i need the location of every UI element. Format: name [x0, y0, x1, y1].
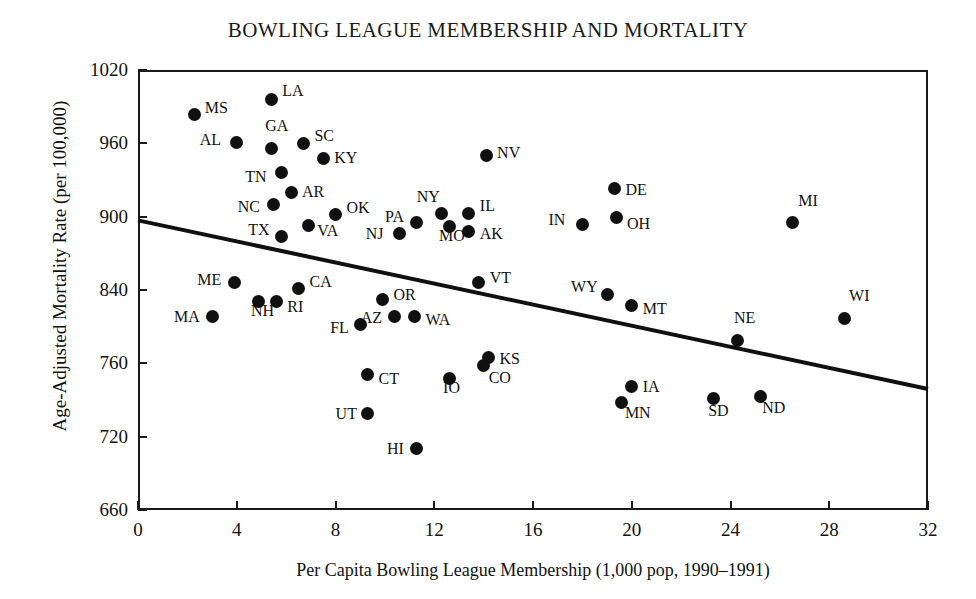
- data-point: [731, 334, 744, 347]
- y-tick-label: 720: [64, 427, 128, 446]
- data-point-label: MT: [643, 301, 667, 317]
- data-point-label: UT: [336, 406, 357, 422]
- data-point: [265, 93, 278, 106]
- data-point-label: TN: [245, 169, 266, 185]
- data-point: [228, 276, 241, 289]
- y-tick-mark: [138, 69, 147, 71]
- y-tick-mark: [138, 216, 147, 218]
- data-point: [297, 137, 310, 150]
- y-tick-mark: [138, 362, 147, 364]
- x-tick-mark: [532, 501, 534, 510]
- data-point: [354, 318, 367, 331]
- data-point-label: VA: [317, 223, 338, 239]
- data-point-label: NJ: [366, 226, 384, 242]
- x-tick-mark: [335, 501, 337, 510]
- y-tick-mark: [138, 436, 147, 438]
- y-tick-mark: [138, 142, 147, 144]
- y-tick-mark: [138, 289, 147, 291]
- data-point: [361, 407, 374, 420]
- data-point-label: MS: [205, 100, 228, 116]
- data-point-label: CO: [489, 370, 511, 386]
- data-point-label: KS: [500, 351, 520, 367]
- y-axis-label: Age-Adjusted Mortality Rate (per 100,000…: [49, 56, 71, 476]
- data-point-label: AL: [200, 132, 221, 148]
- plot-area: [138, 70, 928, 510]
- data-point: [275, 166, 288, 179]
- data-point-label: CT: [379, 371, 399, 387]
- data-point-label: FL: [330, 320, 349, 336]
- y-tick-label: 760: [64, 353, 128, 372]
- x-tick-mark: [927, 501, 929, 510]
- x-tick-label: 0: [118, 520, 158, 539]
- data-point-label: NH: [251, 303, 274, 319]
- x-tick-mark: [137, 501, 139, 510]
- data-point-label: MO: [439, 228, 465, 244]
- x-axis-label: Per Capita Bowling League Membership (1,…: [138, 560, 928, 581]
- data-point-label: IA: [643, 379, 660, 395]
- data-point: [608, 182, 621, 195]
- x-tick-mark: [828, 501, 830, 510]
- data-point-label: WI: [849, 288, 869, 304]
- data-point: [317, 152, 330, 165]
- data-point-label: AR: [302, 184, 324, 200]
- data-point-label: RI: [287, 299, 303, 315]
- data-point-label: NE: [734, 310, 755, 326]
- data-point: [329, 208, 342, 221]
- data-point-label: TX: [248, 222, 269, 238]
- data-point-label: NC: [238, 199, 260, 215]
- data-point-label: MN: [625, 405, 651, 421]
- data-point: [265, 142, 278, 155]
- x-tick-label: 20: [612, 520, 652, 539]
- data-point: [462, 207, 475, 220]
- x-tick-mark: [236, 501, 238, 510]
- data-point-label: OK: [347, 200, 370, 216]
- data-point-label: NV: [497, 145, 520, 161]
- data-point: [206, 310, 219, 323]
- data-point: [480, 149, 493, 162]
- data-point-label: KY: [334, 150, 357, 166]
- x-tick-mark: [730, 501, 732, 510]
- y-tick-label: 960: [64, 133, 128, 152]
- data-point-label: OR: [393, 287, 415, 303]
- data-point-label: HI: [387, 441, 404, 457]
- x-tick-label: 8: [316, 520, 356, 539]
- data-point: [786, 216, 799, 229]
- data-point-label: LA: [282, 83, 303, 99]
- data-point: [275, 230, 288, 243]
- data-point-label: CA: [309, 274, 331, 290]
- data-point-label: IL: [480, 198, 495, 214]
- x-tick-label: 4: [217, 520, 257, 539]
- data-point-label: NY: [417, 189, 440, 205]
- data-point-label: GA: [265, 118, 288, 134]
- data-point-label: IN: [548, 212, 565, 228]
- data-point: [361, 368, 374, 381]
- x-tick-label: 12: [414, 520, 454, 539]
- data-point-label: OH: [627, 216, 650, 232]
- y-tick-mark: [138, 509, 147, 511]
- data-point: [838, 312, 851, 325]
- x-tick-label: 24: [711, 520, 751, 539]
- data-point-label: DE: [625, 182, 646, 198]
- x-tick-mark: [631, 501, 633, 510]
- data-point: [435, 207, 448, 220]
- data-point: [188, 108, 201, 121]
- x-tick-mark: [433, 501, 435, 510]
- data-point: [601, 288, 614, 301]
- data-point-label: PA: [385, 209, 404, 225]
- data-point-label: ND: [762, 400, 785, 416]
- chart-title: BOWLING LEAGUE MEMBERSHIP AND MORTALITY: [0, 18, 976, 43]
- x-tick-label: 32: [908, 520, 948, 539]
- chart-figure: BOWLING LEAGUE MEMBERSHIP AND MORTALITY …: [0, 0, 976, 599]
- data-point-label: VT: [490, 270, 511, 286]
- data-point-label: IO: [443, 380, 460, 396]
- data-point: [302, 219, 315, 232]
- y-tick-label: 660: [64, 500, 128, 519]
- x-tick-label: 16: [513, 520, 553, 539]
- data-point-label: SC: [314, 128, 334, 144]
- data-point-label: MA: [174, 309, 200, 325]
- y-tick-label: 900: [64, 207, 128, 226]
- data-point-label: AK: [480, 226, 503, 242]
- data-point-label: WY: [571, 279, 598, 295]
- data-point-label: SD: [708, 403, 728, 419]
- x-tick-label: 28: [809, 520, 849, 539]
